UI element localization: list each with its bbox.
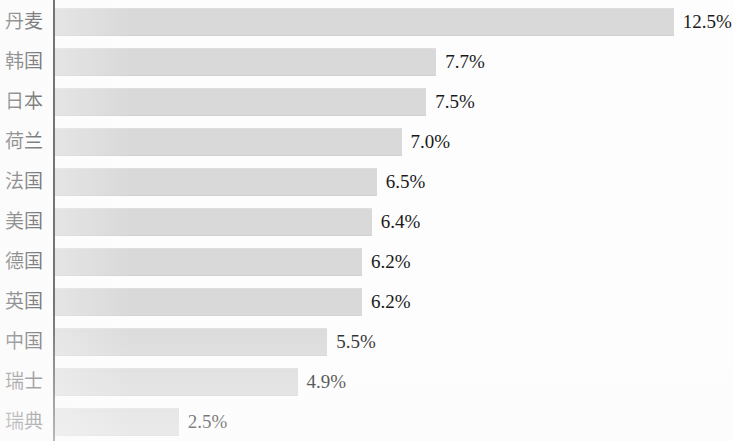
category-label: 英国 (0, 282, 48, 322)
bar (55, 88, 426, 116)
bar-track: 7.5% (55, 82, 733, 122)
bar-row: 法国6.5% (0, 162, 733, 202)
bar-value-label: 6.2% (371, 248, 411, 276)
bar-track: 7.0% (55, 122, 733, 162)
plot-area: 丹麦12.5%韩国7.7%日本7.5%荷兰7.0%法国6.5%美国6.4%德国6… (0, 0, 733, 441)
category-label: 德国 (0, 242, 48, 282)
bar-row: 日本7.5% (0, 82, 733, 122)
bar-row: 美国6.4% (0, 202, 733, 242)
bar (55, 208, 372, 236)
bar-value-label: 6.4% (381, 208, 421, 236)
bar-track: 6.4% (55, 202, 733, 242)
bar-value-label: 4.9% (307, 368, 347, 396)
bar-row: 瑞典2.5% (0, 402, 733, 441)
bar-value-label: 6.5% (386, 168, 426, 196)
bar (55, 248, 362, 276)
bar-row: 德国6.2% (0, 242, 733, 282)
bar (55, 368, 298, 396)
bar-row: 荷兰7.0% (0, 122, 733, 162)
bar (55, 288, 362, 316)
category-label: 日本 (0, 82, 48, 122)
bar (55, 168, 377, 196)
bar (55, 8, 674, 36)
bar-track: 7.7% (55, 42, 733, 82)
bar-track: 5.5% (55, 322, 733, 362)
bar-value-label: 6.2% (371, 288, 411, 316)
category-label: 美国 (0, 202, 48, 242)
bar-track: 12.5% (55, 2, 733, 42)
category-label: 中国 (0, 322, 48, 362)
bar-value-label: 5.5% (336, 328, 376, 356)
bar-row: 中国5.5% (0, 322, 733, 362)
bar-row: 英国6.2% (0, 282, 733, 322)
bar-track: 4.9% (55, 362, 733, 402)
category-label: 瑞典 (0, 402, 48, 441)
category-label: 丹麦 (0, 2, 48, 42)
category-label: 韩国 (0, 42, 48, 82)
bar-track: 6.2% (55, 282, 733, 322)
category-label: 荷兰 (0, 122, 48, 162)
bar-value-label: 7.7% (445, 48, 485, 76)
bar-track: 6.5% (55, 162, 733, 202)
bar-row: 瑞士4.9% (0, 362, 733, 402)
bar (55, 328, 327, 356)
bar-value-label: 12.5% (683, 8, 732, 36)
bar-row: 韩国7.7% (0, 42, 733, 82)
bar (55, 408, 179, 436)
bar-track: 6.2% (55, 242, 733, 282)
bar-value-label: 7.0% (411, 128, 451, 156)
bar-track: 2.5% (55, 402, 733, 441)
category-label: 法国 (0, 162, 48, 202)
bar-row: 丹麦12.5% (0, 2, 733, 42)
category-axis-line (53, 0, 55, 441)
bar-value-label: 2.5% (188, 408, 228, 436)
bar (55, 48, 436, 76)
bar-chart: 丹麦12.5%韩国7.7%日本7.5%荷兰7.0%法国6.5%美国6.4%德国6… (0, 0, 733, 441)
bar (55, 128, 402, 156)
bar-value-label: 7.5% (435, 88, 475, 116)
category-label: 瑞士 (0, 362, 48, 402)
